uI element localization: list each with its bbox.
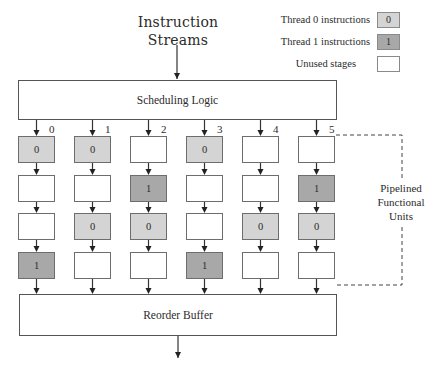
pipeline-stage [130, 252, 167, 279]
reorder-buffer-label: Reorder Buffer [143, 309, 213, 321]
pipeline-stage: 1 [130, 175, 167, 202]
pipeline-stage [298, 252, 335, 279]
fu-label-line-2: Functional [366, 195, 436, 209]
pipeline-stage: 1 [298, 175, 335, 202]
pipeline-stage [242, 136, 279, 163]
pipeline-stage: 0 [18, 136, 55, 163]
functional-units-bracket-bottom [336, 227, 402, 285]
column-index-label: 0 [49, 123, 55, 135]
pipeline-stage [186, 175, 223, 202]
pipeline-stage [186, 213, 223, 240]
pipeline-stage [18, 175, 55, 202]
pipeline-stage: 0 [186, 136, 223, 163]
pipeline-stage [74, 252, 111, 279]
fu-label-line-1: Pipelined [366, 181, 436, 195]
pipeline-stage: 1 [186, 252, 223, 279]
functional-units-bracket-top [336, 135, 402, 180]
fu-label-line-3: Units [366, 209, 436, 223]
pipeline-stage [242, 252, 279, 279]
column-index-label: 3 [217, 123, 223, 135]
pipeline-stage [242, 175, 279, 202]
pipeline-stage [298, 136, 335, 163]
pipeline-stage: 0 [298, 213, 335, 240]
pipelined-functional-units-label: Pipelined Functional Units [366, 181, 436, 223]
scheduling-logic-box: Scheduling Logic [18, 80, 337, 120]
scheduling-logic-label: Scheduling Logic [137, 94, 218, 106]
column-index-label: 2 [161, 123, 167, 135]
column-index-label: 5 [329, 123, 335, 135]
pipeline-stage [130, 136, 167, 163]
column-index-label: 1 [105, 123, 111, 135]
reorder-buffer-box: Reorder Buffer [19, 294, 337, 336]
column-index-label: 4 [273, 123, 279, 135]
pipeline-stage [18, 213, 55, 240]
pipeline-stage: 0 [74, 213, 111, 240]
pipeline-stage [74, 175, 111, 202]
pipeline-stage: 0 [242, 213, 279, 240]
pipeline-stage: 1 [18, 252, 55, 279]
pipeline-stage: 0 [74, 136, 111, 163]
pipeline-stage: 0 [130, 213, 167, 240]
